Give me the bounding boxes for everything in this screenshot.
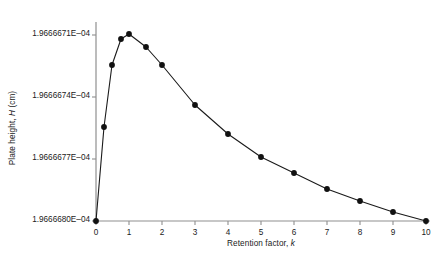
x-axis-tick-label: 8 (350, 228, 370, 237)
data-point-marker (118, 36, 124, 42)
data-point-marker (143, 44, 149, 50)
chart-figure: 1.9666671E–041.9666674E–041.9666677E–041… (0, 0, 438, 258)
x-axis-title-symbol: k (291, 239, 295, 248)
data-point-marker (101, 124, 107, 130)
data-point-marker (126, 31, 132, 37)
y-axis-title-suffix: (cm) (8, 91, 17, 110)
data-point-marker (324, 186, 330, 192)
x-axis-tick-label: 6 (284, 228, 304, 237)
data-series-markers (93, 31, 429, 224)
data-point-marker (357, 198, 363, 204)
y-axis-title-symbol: H (8, 110, 17, 116)
x-axis-title: Retention factor, k (96, 239, 426, 248)
x-axis-tick-label: 3 (185, 228, 205, 237)
data-point-marker (390, 209, 396, 215)
x-axis-tick-label: 9 (383, 228, 403, 237)
data-point-marker (109, 62, 115, 68)
data-point-marker (159, 62, 165, 68)
data-point-marker (258, 154, 264, 160)
y-axis-title-prefix: Plate height, (8, 116, 17, 165)
x-axis-tick-label: 1 (119, 228, 139, 237)
data-point-marker (291, 170, 297, 176)
x-axis-tick-label: 0 (86, 228, 106, 237)
y-axis-tick-label: 1.9666671E–04 (0, 29, 90, 38)
x-axis-tick-label: 7 (317, 228, 337, 237)
x-axis-tick-label: 2 (152, 228, 172, 237)
x-axis-tick-label: 10 (416, 228, 436, 237)
data-point-marker (423, 218, 429, 224)
y-axis-title: Plate height, H (cm) (8, 58, 17, 198)
y-axis-tick-label: 1.9666680E–04 (0, 215, 90, 224)
x-axis-tick-label: 5 (251, 228, 271, 237)
data-point-marker (192, 102, 198, 108)
data-series-line (96, 34, 426, 221)
data-point-marker (93, 218, 99, 224)
x-axis-tick-marks (96, 221, 426, 225)
x-axis-title-prefix: Retention factor, (227, 239, 291, 248)
x-axis-tick-label: 4 (218, 228, 238, 237)
data-point-marker (225, 131, 231, 137)
